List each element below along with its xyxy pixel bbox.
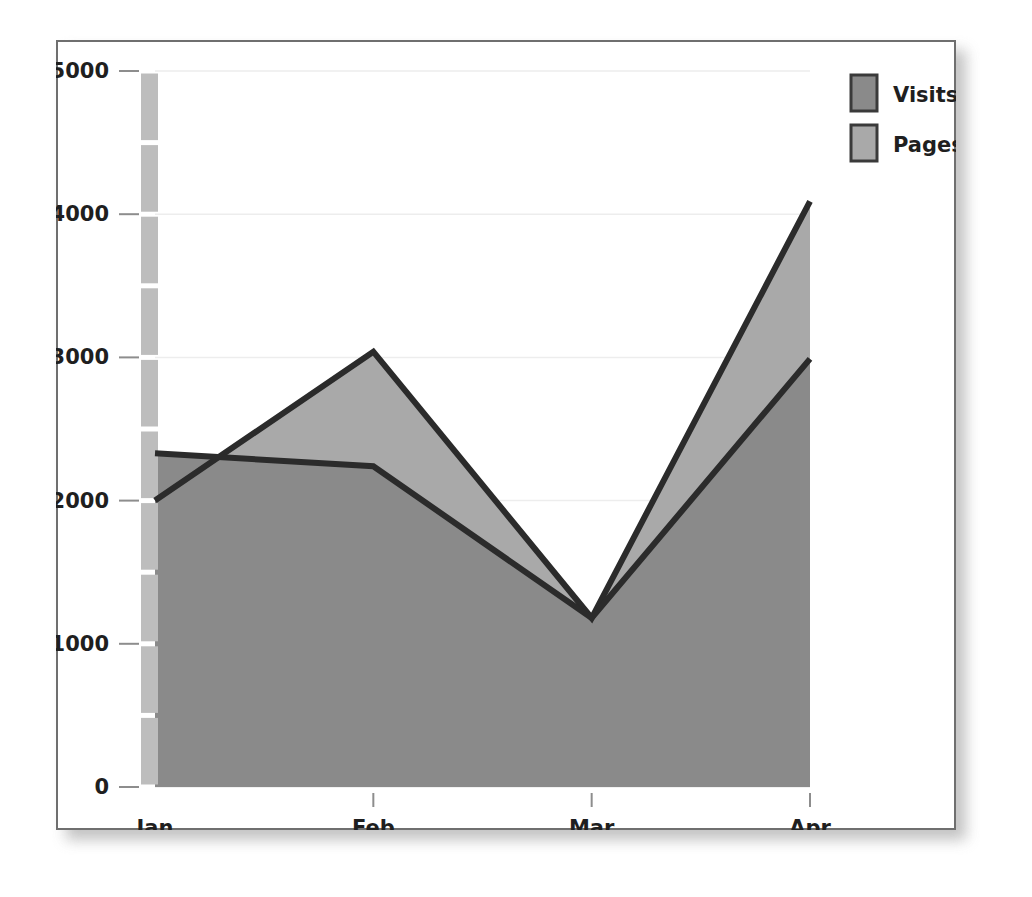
x-axis-label: Jan — [135, 816, 174, 830]
y-axis-band-segment — [141, 217, 158, 284]
legend-swatch[interactable] — [851, 125, 877, 161]
y-axis-label: 1000 — [56, 632, 109, 656]
ylabel-layer: 010002000300040005000 — [56, 59, 109, 799]
legend-layer[interactable]: VisitsPages — [851, 75, 956, 161]
y-axis-label: 4000 — [56, 202, 109, 226]
x-axis-label: Mar — [569, 816, 615, 830]
y-axis-band-segment — [141, 432, 158, 499]
legend-label[interactable]: Pages — [893, 133, 956, 157]
y-axis-band-segment — [141, 503, 158, 570]
legend-label[interactable]: Visits — [893, 83, 956, 107]
y-axis-label: 5000 — [56, 59, 109, 83]
y-axis-band-segment — [141, 718, 158, 785]
axis-band-layer — [141, 74, 158, 785]
y-axis-band-segment — [141, 74, 158, 141]
y-axis-band-segment — [141, 360, 158, 427]
y-axis-label: 3000 — [56, 345, 109, 369]
legend-swatch[interactable] — [851, 75, 877, 111]
x-axis-label: Feb — [352, 816, 395, 830]
y-axis-band-segment — [141, 145, 158, 212]
area-chart[interactable]: 010002000300040005000 JanFebMarApr Visit… — [56, 40, 956, 830]
xlabel-layer: JanFebMarApr — [135, 816, 832, 830]
area-layer — [155, 201, 810, 787]
y-axis-band-segment — [141, 646, 158, 713]
y-axis-band-segment — [141, 575, 158, 642]
x-axis-label: Apr — [789, 816, 831, 830]
chart-screenshot: 010002000300040005000 JanFebMarApr Visit… — [0, 0, 1032, 897]
y-axis-label: 2000 — [56, 489, 109, 513]
y-axis-band-segment — [141, 288, 158, 355]
y-axis-label: 0 — [94, 775, 109, 799]
